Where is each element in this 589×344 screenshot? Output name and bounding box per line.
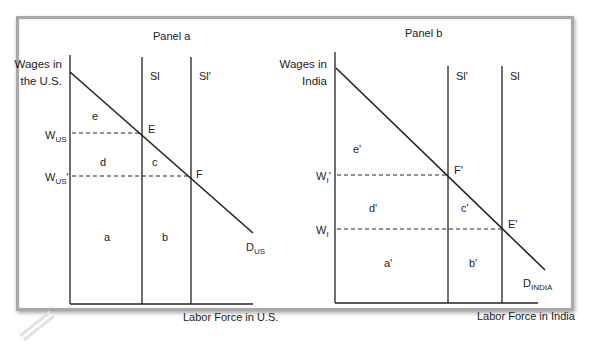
panel-b-demand-label: DINDIA	[523, 277, 553, 292]
panel-b-wage-label-wi: WI	[316, 224, 329, 239]
panel-b-supply-label-sl-prime: Sl'	[456, 70, 468, 82]
panel-b-point-f-prime: F'	[454, 164, 463, 176]
panel-b-wage-label-wi-prime: WI'	[316, 170, 331, 185]
panel-b-area-d-prime: d'	[369, 202, 377, 214]
panel-a-supply-label-sl-prime: Sl'	[199, 70, 211, 82]
panel-a-area-e: e	[92, 110, 98, 122]
panel-a-demand-label: DUS	[246, 241, 265, 256]
panel-b-area-c-prime: c'	[461, 202, 469, 214]
panel-b-area-e-prime: e'	[353, 143, 361, 155]
panel-b: Panel b Wages in India Sl' Sl DINDIA WI'…	[279, 27, 575, 322]
panel-b-supply-label-sl: Sl	[510, 70, 520, 82]
panel-b-demand-curve	[336, 68, 545, 270]
panel-b-title: Panel b	[405, 27, 442, 39]
panel-a-area-a: a	[104, 231, 111, 243]
panel-a-x-axis-label: Labor Force in U.S.	[183, 311, 278, 323]
panel-a-area-d: d	[100, 156, 106, 168]
panel-a-wage-label-wus-prime: WUS'	[45, 171, 69, 186]
panel-b-area-a-prime: a'	[384, 257, 392, 269]
decorative-stroke-icon	[20, 312, 54, 340]
panel-b-x-axis-label: Labor Force in India	[477, 310, 576, 322]
panel-b-point-e-prime: E'	[508, 218, 517, 230]
panel-b-y-axis-label-line2: India	[302, 75, 328, 87]
panel-a-wage-label-wus: WUS	[45, 129, 67, 144]
panel-a-area-b: b	[162, 231, 168, 243]
panel-a: Panel a Wages in the U.S. Sl Sl' DUS WUS…	[14, 30, 278, 323]
panel-a-point-f: F	[196, 168, 203, 180]
panel-a-area-c: c	[152, 156, 158, 168]
panel-a-y-axis-label-line1: Wages in	[14, 58, 62, 70]
panel-a-title: Panel a	[153, 30, 191, 42]
panel-a-demand-curve	[70, 72, 253, 233]
panel-a-supply-label-sl: Sl	[150, 70, 160, 82]
panel-b-y-axis-label-line1: Wages in	[279, 58, 327, 70]
panel-a-y-axis-label-line2: the U.S.	[20, 75, 62, 87]
panel-a-point-e: E	[148, 123, 155, 135]
labor-migration-diagram: Panel a Wages in the U.S. Sl Sl' DUS WUS…	[0, 0, 589, 344]
panel-b-area-b-prime: b'	[469, 257, 477, 269]
